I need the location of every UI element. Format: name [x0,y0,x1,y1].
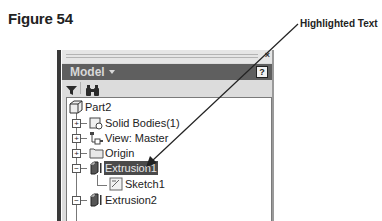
callout-arrow [0,0,382,221]
